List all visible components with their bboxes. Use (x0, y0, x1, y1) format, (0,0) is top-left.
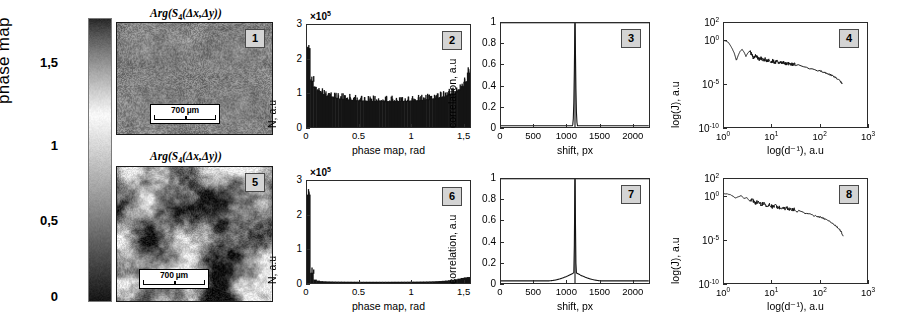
panel-4-ytickmark-0 (723, 22, 727, 23)
panel-2-badge: 2 (442, 31, 462, 50)
panel-6-ytick-2: 2 (273, 210, 302, 220)
panel-2-xtick-0: 0 (286, 131, 326, 141)
micrograph-1-title: Arg(S4(Δx,Δy)) (150, 7, 222, 22)
panel-8-ytick-3-exponent: -10 (710, 278, 719, 285)
panel-7-ytickmark-2 (500, 242, 504, 243)
panel-4-ytickmark-2 (723, 84, 727, 85)
panel-7-xtickmark-0 (500, 280, 501, 284)
micrograph-1-title-prefix: Arg(S (150, 7, 178, 19)
panel-8-ytick-1: 100 (690, 191, 719, 202)
panel-4-xtick-1: 101 (751, 131, 791, 142)
panel-2-ytick-2: 2 (273, 54, 302, 64)
panel-3-ytick-3: 0.6 (467, 59, 496, 69)
panel-2-ytickmark-2 (306, 59, 310, 60)
panel-7-ytick-3: 0.6 (467, 215, 496, 225)
panel-8-xtick-1-exponent: 1 (775, 286, 779, 293)
figure-root: phase map 1,5 1 0,5 0 Arg(S4(Δx,Δy)) 1 7… (0, 0, 916, 315)
panel-7-ytick-2: 0.4 (467, 237, 496, 247)
panel-8-ytick-2-exponent: -5 (713, 234, 719, 241)
panel-4-ytick-0-exponent: 2 (715, 16, 719, 23)
panel-6-xtick-1: 0.5 (339, 287, 379, 297)
panel-4-xtick-2-base: 10 (813, 131, 824, 142)
panel-8-xtick-0-exponent: 0 (726, 286, 730, 293)
panel-2-ytick-1: 1 (273, 88, 302, 98)
panel-3-ytickmark-2 (500, 86, 504, 87)
panel-3-ytickmark-3 (500, 64, 504, 65)
micrograph-5-title: Arg(S4(Δx,Δy)) (150, 150, 222, 165)
colorbar-gradient (88, 18, 112, 302)
micrograph-5-scalebar: 700 µm (139, 269, 209, 290)
panel-8-xlabel: log(d⁻¹), a.u (723, 300, 868, 312)
panel-3-xlabel: shift, px (500, 144, 650, 156)
panel-6-ytick-1: 1 (273, 244, 302, 254)
panel-8-ytickmark-2 (723, 240, 727, 241)
panel-6-xlabel: phase map, rad (306, 300, 471, 312)
panel-4-xtick-3: 103 (848, 131, 888, 142)
panel-4-ytick-1-exponent: 0 (715, 34, 719, 41)
panel-3-ytickmark-4 (500, 43, 504, 44)
panel-6-xtickmark-1 (359, 280, 360, 284)
micrograph-1-scalebar-rule (154, 115, 216, 120)
panel-4-ytick-0: 102 (690, 17, 719, 28)
micrograph-5: 5 700 µm (116, 166, 273, 302)
panel-7-xtickmark-1 (533, 280, 534, 284)
panel-4-ytick-0-base: 10 (704, 17, 715, 28)
panel-3-ytick-5: 1 (467, 17, 496, 27)
panel-7-xtick-4: 2000 (613, 287, 653, 297)
micrograph-1-title-suffix: (Δx,Δy)) (182, 7, 222, 19)
panel-2-xtickmark-0 (306, 124, 307, 128)
panel-2-ytickmark-1 (306, 93, 310, 94)
panel-6-ytickmark-3 (306, 180, 310, 181)
panel-8-ytick-1-base: 10 (704, 191, 715, 202)
panel-8-plot-area: 8 (723, 178, 868, 284)
panel-8-xtick-3-exponent: 3 (871, 286, 875, 293)
micrograph-1-badge: 1 (245, 29, 265, 48)
panel-7-ytick-1: 0.2 (467, 258, 496, 268)
panel-6-ytickmark-2 (306, 215, 310, 216)
panel-4-xtick-0-base: 10 (716, 131, 727, 142)
panel-4-xtick-2-exponent: 2 (823, 130, 827, 137)
panel-4-xtick-1-exponent: 1 (775, 130, 779, 137)
colorbar-tick-0: 1,5 (32, 56, 58, 69)
panel-3-ytick-1: 0.2 (467, 102, 496, 112)
panel-8-xtick-2: 102 (800, 287, 840, 298)
colorbar (88, 18, 112, 302)
panel-8-xtick-1-base: 10 (764, 287, 775, 298)
panel-3-xtickmark-3 (600, 124, 601, 128)
colorbar-tick-3: 0 (32, 290, 58, 303)
panel-6-y-multiplier-exponent: 5 (327, 166, 331, 173)
colorbar-ticklabels: 1,5 1 0,5 0 (58, 18, 88, 302)
panel-7-ylabel: correlation, a.u (446, 215, 458, 284)
panel-8-ytick-0-base: 10 (704, 173, 715, 184)
panel-8-ytickmark-3 (723, 284, 727, 285)
micrograph-1-scalebar: 700 µm (150, 104, 220, 125)
panel-4-ytickmark-1 (723, 40, 727, 41)
panel-4-xtickmark-1 (771, 124, 772, 128)
panel-8-xtick-3-base: 10 (861, 287, 872, 298)
panel-7-plot-area: 7 (500, 178, 650, 284)
panel-4-xtick-0-exponent: 0 (726, 130, 730, 137)
panel-2-ytick-3: 3 (273, 19, 302, 29)
panel-3-ytickmark-5 (500, 22, 504, 23)
panel-8-ylabel: log(J), a.u (669, 237, 681, 284)
panel-6-xtickmark-3 (464, 280, 465, 284)
panel-2-xtickmark-1 (359, 124, 360, 128)
panel-3-ytickmark-1 (500, 107, 504, 108)
panel-4-ytick-1-base: 10 (704, 35, 715, 46)
panel-8-ytickmark-1 (723, 196, 727, 197)
panel-7-xtickmark-4 (633, 280, 634, 284)
panel-6-xtickmark-0 (306, 280, 307, 284)
colorbar-tick-2: 0,5 (32, 214, 58, 227)
panel-3-xtick-4: 2000 (613, 131, 653, 141)
panel-6-xtick-0: 0 (286, 287, 326, 297)
panel-6-xtickmark-2 (411, 280, 412, 284)
panel-8-ytick-1-exponent: 0 (715, 190, 719, 197)
panel-8-ytick-0-exponent: 2 (715, 172, 719, 179)
panel-4-ytick-2-exponent: -5 (713, 78, 719, 85)
colorbar-axis-title: phase map (0, 17, 14, 104)
panel-4-xtick-1-base: 10 (764, 131, 775, 142)
panel-2-xtickmark-2 (411, 124, 412, 128)
micrograph-1: 1 700 µm (116, 22, 273, 135)
panel-2-ytickmark-0 (306, 128, 310, 129)
panel-4-xtickmark-0 (723, 124, 724, 128)
